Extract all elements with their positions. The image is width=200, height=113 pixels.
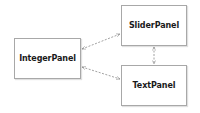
node-label: IntegerPanel [19, 54, 76, 63]
node-text-panel[interactable]: TextPanel [121, 65, 187, 106]
node-label: TextPanel [133, 81, 176, 90]
edge-integer-text [82, 67, 120, 79]
node-integer-panel[interactable]: IntegerPanel [14, 38, 81, 79]
node-slider-panel[interactable]: SliderPanel [121, 5, 187, 46]
edge-integer-slider [82, 34, 120, 49]
node-label: SliderPanel [129, 21, 179, 30]
